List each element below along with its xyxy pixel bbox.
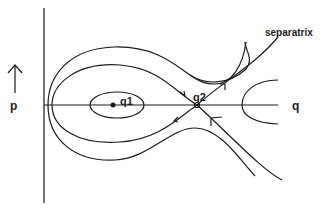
separatrix-upper-right — [197, 37, 278, 105]
orbit-right — [242, 80, 278, 124]
orbit-outer-lower — [48, 105, 255, 176]
arrow-tick-lr — [211, 117, 222, 126]
q-axis-label: q — [292, 100, 299, 112]
q1-label: q1 — [120, 96, 133, 107]
separatrix-lower-right — [197, 105, 282, 180]
p-axis-label: p — [10, 100, 17, 112]
up-arrow-icon — [8, 65, 22, 93]
orbit-outer-upper — [48, 42, 249, 105]
orbit-outer-upper-fix — [190, 42, 246, 84]
point-q1 — [111, 103, 116, 108]
separatrix-label: separatrix — [265, 28, 313, 38]
q2-label: q2 — [193, 92, 206, 103]
